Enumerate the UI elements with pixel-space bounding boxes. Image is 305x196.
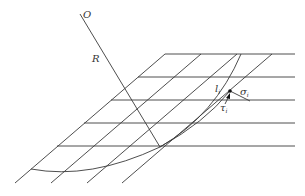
length-label: li (215, 83, 220, 95)
grid-line-d2 (51, 54, 201, 183)
radius-label: R (91, 53, 100, 64)
normal-stress-label: σi (240, 86, 249, 98)
slip-surface-diagram: O R li σi τi (0, 0, 305, 196)
radius-line (80, 14, 160, 147)
grid-line-d3 (87, 54, 237, 183)
normal-stress-arrowhead-icon (228, 89, 232, 93)
grid-horizontal-lines (57, 54, 295, 146)
center-label: O (83, 9, 91, 20)
shear-stress-label: τi (220, 102, 228, 114)
grid-diagonal-lines (15, 54, 272, 183)
